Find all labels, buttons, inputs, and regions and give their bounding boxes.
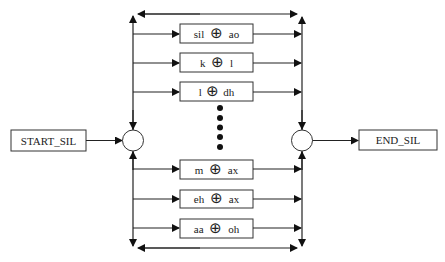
end-sil-label: END_SIL xyxy=(376,134,421,146)
xor-icon: ⊕ xyxy=(209,161,222,177)
pair-left: sil xyxy=(194,28,204,40)
start-sil-node: START_SIL xyxy=(11,130,86,151)
xor-icon: ⊕ xyxy=(210,25,223,41)
pair-left: l xyxy=(199,86,202,98)
svg-text:m ⊕ ax: m ⊕ ax xyxy=(195,161,239,177)
merge-node xyxy=(292,130,313,151)
pair-right: ao xyxy=(229,28,240,40)
xor-icon: ⊕ xyxy=(206,83,219,99)
end-sil-node: END_SIL xyxy=(359,130,437,150)
pair-right: oh xyxy=(228,223,240,235)
pair-right: ax xyxy=(229,193,240,205)
pair-right: l xyxy=(230,57,233,69)
xor-icon: ⊕ xyxy=(210,190,223,206)
pair-right: dh xyxy=(223,86,235,98)
svg-text:l ⊕ dh: l ⊕ dh xyxy=(199,83,235,99)
svg-text:eh ⊕ ax: eh ⊕ ax xyxy=(194,190,240,206)
pair-left: k xyxy=(200,57,206,69)
pair-box-aa-oh: aa ⊕ oh xyxy=(133,219,301,238)
pair-left: eh xyxy=(194,193,205,205)
xor-icon: ⊕ xyxy=(209,220,222,236)
pair-box-m-ax: m ⊕ ax xyxy=(133,160,301,179)
pair-box-l-dh: l ⊕ dh xyxy=(133,82,301,101)
pair-left: aa xyxy=(194,223,204,235)
svg-text:sil ⊕ ao: sil ⊕ ao xyxy=(194,25,240,41)
pair-left: m xyxy=(195,164,204,176)
start-sil-label: START_SIL xyxy=(21,135,77,147)
ellipsis-dots xyxy=(217,105,223,150)
pair-box-eh-ax: eh ⊕ ax xyxy=(133,190,301,208)
split-node xyxy=(123,130,144,151)
pair-box-k-l: k ⊕ l xyxy=(133,53,301,72)
pair-right: ax xyxy=(228,164,239,176)
xor-icon: ⊕ xyxy=(211,54,224,70)
phone-pair-network-diagram: START_SIL END_SIL sil ⊕ ao xyxy=(0,0,445,262)
svg-text:aa ⊕ oh: aa ⊕ oh xyxy=(194,220,240,236)
pair-box-sil-ao: sil ⊕ ao xyxy=(133,24,301,43)
